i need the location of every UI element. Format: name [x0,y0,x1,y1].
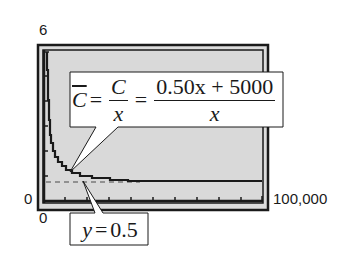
asymptote-var: y [82,217,92,243]
formula-lhs: C [72,87,87,113]
formula-frac1: C x [109,76,128,125]
asymptote-eq: = [95,217,107,243]
formula-eq1: = [90,87,102,113]
x-min-label: 0 [39,210,47,225]
formula-frac2-num: 0.50x + 5000 [154,76,275,101]
formula-eq2: = [135,87,147,113]
formula-frac2: 0.50x + 5000 x [154,76,275,125]
asymptote-value: 0.5 [110,217,138,243]
chart-canvas [0,0,353,260]
x-max-label: 100,000 [273,191,327,206]
formula-frac2-den: x [210,101,220,125]
y-max-label: 6 [39,22,47,37]
formula-frac1-den: x [114,101,124,125]
formula-frac1-num: C [109,76,128,101]
formula-text: C = C x = 0.50x + 5000 x [72,74,282,126]
y-min-label: 0 [24,191,32,206]
asymptote-label: y = 0.5 [72,215,148,245]
